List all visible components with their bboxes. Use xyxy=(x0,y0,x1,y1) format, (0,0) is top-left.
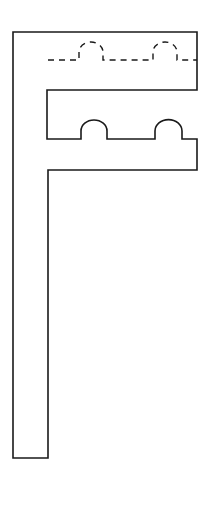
background xyxy=(0,0,213,507)
diagram-canvas xyxy=(0,0,213,507)
